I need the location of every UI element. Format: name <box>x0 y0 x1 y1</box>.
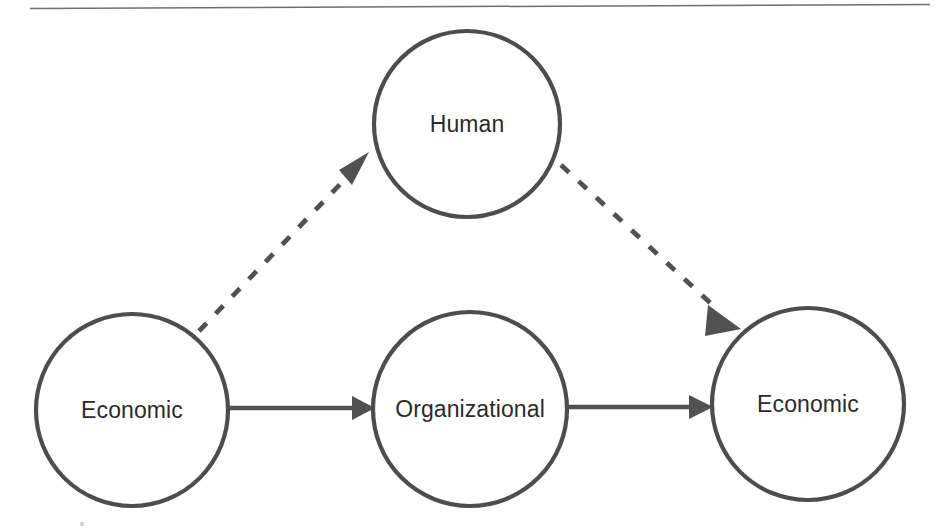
node-human[interactable]: Human <box>374 31 560 217</box>
node-label-economic-left: Economic <box>81 397 183 423</box>
node-economic-left[interactable]: Economic <box>36 314 228 506</box>
edge-line <box>199 174 350 331</box>
edge-economic-left-to-organizational <box>229 396 375 420</box>
horizontal-rule <box>30 5 930 9</box>
edge-economic-left-to-human <box>199 152 369 331</box>
edge-organizational-to-economic-right <box>568 395 713 419</box>
arrowhead-icon <box>339 152 369 185</box>
node-label-organizational: Organizational <box>395 396 545 422</box>
node-label-economic-right: Economic <box>757 391 859 417</box>
node-label-human: Human <box>430 111 505 137</box>
arrowhead-icon <box>689 395 713 419</box>
diagram-page: Human Economic Organizational Economic <box>0 0 946 531</box>
edge-line <box>561 165 719 311</box>
node-organizational[interactable]: Organizational <box>373 312 567 506</box>
scan-artifact-speck <box>80 522 84 526</box>
edge-human-to-economic-right <box>561 165 741 336</box>
arrowhead-icon <box>705 305 741 336</box>
diagram-canvas: Human Economic Organizational Economic <box>0 0 946 531</box>
node-economic-right[interactable]: Economic <box>712 308 904 500</box>
